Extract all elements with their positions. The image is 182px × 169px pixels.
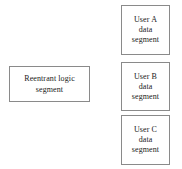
- reentrant-logic-segment-line-2: segment: [36, 84, 63, 95]
- reentrant-logic-segment-line-1: Reentrant logic: [24, 73, 75, 84]
- diagram-canvas: Reentrant logic segment User A data segm…: [0, 0, 182, 169]
- user-a-data-segment-line-1: User A: [134, 15, 157, 25]
- user-a-data-segment-box: User A data segment: [121, 5, 170, 55]
- reentrant-logic-segment-box: Reentrant logic segment: [9, 66, 90, 102]
- user-a-data-segment-line-3: segment: [132, 35, 159, 45]
- user-a-data-segment-line-2: data: [139, 25, 153, 35]
- user-c-data-segment-box: User C data segment: [121, 115, 170, 165]
- user-b-data-segment-line-1: User B: [134, 72, 157, 82]
- user-b-data-segment-line-3: segment: [132, 92, 159, 102]
- user-b-data-segment-box: User B data segment: [121, 62, 170, 111]
- user-c-data-segment-line-1: User C: [134, 125, 157, 135]
- user-b-data-segment-line-2: data: [139, 82, 153, 92]
- user-c-data-segment-line-3: segment: [132, 145, 159, 155]
- user-c-data-segment-line-2: data: [139, 135, 153, 145]
